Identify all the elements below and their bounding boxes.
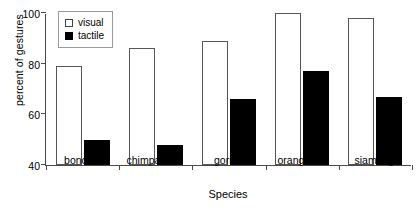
y-axis-tick-labels: 406080100 bbox=[14, 0, 40, 212]
x-axis-category-label: bonobo bbox=[45, 154, 118, 166]
legend: visual tactile bbox=[58, 11, 113, 48]
bar-visual-siamang bbox=[348, 18, 374, 165]
x-axis-category-label: gorilla bbox=[191, 154, 264, 166]
legend-label-tactile: tactile bbox=[78, 31, 104, 41]
x-axis-category-label: chimpanzee bbox=[118, 154, 191, 166]
y-axis-tick bbox=[41, 12, 46, 13]
y-axis-tick-label: 40 bbox=[14, 161, 40, 171]
x-axis-tick bbox=[412, 165, 413, 170]
bar-tactile-orangutan bbox=[303, 71, 329, 165]
y-axis-tick-label: 80 bbox=[14, 60, 40, 70]
legend-label-visual: visual bbox=[78, 18, 104, 28]
bar-visual-bonobo bbox=[56, 66, 82, 165]
bar-visual-gorilla bbox=[202, 41, 228, 165]
bar-group bbox=[192, 14, 265, 165]
x-axis-category-label: orangutan bbox=[265, 154, 338, 166]
bar-visual-orangutan bbox=[275, 13, 301, 165]
legend-swatch-visual-icon bbox=[65, 19, 73, 27]
legend-swatch-tactile-icon bbox=[65, 32, 73, 40]
legend-item-visual: visual bbox=[65, 17, 104, 29]
x-axis-label: Species bbox=[45, 188, 411, 200]
bar-group bbox=[266, 14, 339, 165]
bar-group bbox=[119, 14, 192, 165]
y-axis-tick-label: 100 bbox=[14, 9, 40, 19]
legend-item-tactile: tactile bbox=[65, 30, 104, 42]
bar-visual-chimpanzee bbox=[129, 48, 155, 165]
y-axis-tick-label: 60 bbox=[14, 110, 40, 120]
bar-chart: percent of gestures 406080100 Species vi… bbox=[0, 0, 416, 212]
bar-group bbox=[339, 14, 412, 165]
x-axis-category-label: siamang bbox=[338, 154, 411, 166]
